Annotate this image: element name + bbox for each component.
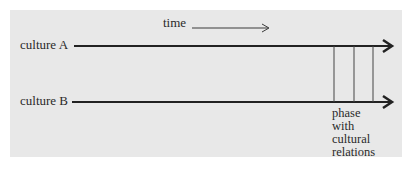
culture-a-timeline bbox=[74, 40, 392, 52]
phase-label-line: relations bbox=[332, 146, 375, 159]
time-label: time bbox=[163, 16, 186, 30]
culture-a-label: culture A bbox=[20, 38, 68, 52]
cultural-contact-lines bbox=[334, 46, 373, 102]
time-arrow-icon bbox=[192, 24, 269, 32]
culture-b-label: culture B bbox=[20, 94, 68, 108]
phase-label: phase with cultural relations bbox=[332, 107, 375, 159]
